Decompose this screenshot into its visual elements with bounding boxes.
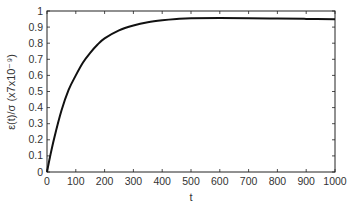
y-tick-label: 0.2: [28, 133, 43, 145]
x-axis-tick-labels: 01002003004005006007008009001000: [44, 175, 347, 187]
chart: 01002003004005006007008009001000 00.10.2…: [0, 0, 356, 211]
x-tick-label: 600: [211, 175, 229, 187]
y-tick-label: 0.6: [28, 69, 43, 81]
x-tick-label: 400: [153, 175, 171, 187]
x-axis-label: t: [189, 191, 192, 203]
x-axis-ticks: [47, 11, 335, 172]
x-tick-label: 200: [96, 175, 114, 187]
y-tick-label: 0: [37, 166, 43, 178]
y-tick-label: 0.4: [28, 101, 43, 113]
x-tick-label: 100: [67, 175, 85, 187]
y-tick-label: 0.3: [28, 117, 43, 129]
y-tick-label: 0.9: [28, 21, 43, 33]
x-tick-label: 800: [269, 175, 287, 187]
series-layer: [47, 18, 335, 172]
x-tick-label: 900: [297, 175, 315, 187]
series-line: [47, 18, 335, 172]
x-tick-label: 700: [240, 175, 258, 187]
x-tick-label: 1000: [323, 175, 347, 187]
y-tick-label: 0.7: [28, 53, 43, 65]
y-axis-ticks: [47, 11, 335, 172]
y-axis-label: ε(t)/σ (x7x10⁻⁹): [5, 54, 17, 130]
y-tick-label: 0.8: [28, 37, 43, 49]
y-tick-label: 0.5: [28, 85, 43, 97]
x-tick-label: 300: [125, 175, 143, 187]
plot-area: [47, 11, 335, 172]
plot-frame: [47, 11, 335, 172]
y-axis-tick-labels: 00.10.20.30.40.50.60.70.80.91: [28, 5, 43, 178]
y-tick-label: 1: [37, 5, 43, 17]
x-tick-label: 500: [182, 175, 200, 187]
y-tick-label: 0.1: [28, 149, 43, 161]
x-tick-label: 0: [44, 175, 50, 187]
